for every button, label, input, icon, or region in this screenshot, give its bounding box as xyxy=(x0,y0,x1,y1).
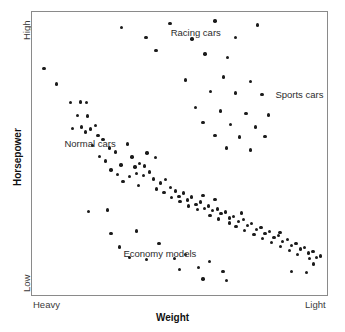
data-point xyxy=(55,82,58,85)
data-point xyxy=(42,67,45,70)
data-point xyxy=(208,260,211,263)
data-point xyxy=(254,125,257,128)
data-point xyxy=(278,231,281,234)
data-point xyxy=(174,189,177,192)
data-point xyxy=(268,230,271,233)
data-point xyxy=(98,155,101,158)
data-point xyxy=(221,270,224,273)
data-point xyxy=(190,195,193,198)
data-point xyxy=(152,177,155,180)
data-point xyxy=(267,113,270,116)
y-axis-title: Horsepower xyxy=(13,128,23,186)
data-point xyxy=(154,49,157,52)
data-point xyxy=(169,186,172,189)
data-point xyxy=(244,112,247,115)
data-point xyxy=(234,36,237,39)
data-point xyxy=(256,23,259,26)
data-point xyxy=(137,184,140,187)
data-point xyxy=(162,191,165,194)
data-point xyxy=(133,165,136,168)
data-point xyxy=(106,208,109,211)
data-point xyxy=(225,279,228,282)
data-point xyxy=(85,101,88,104)
data-point xyxy=(79,100,82,103)
data-point xyxy=(87,210,90,213)
data-point xyxy=(270,241,273,244)
data-point xyxy=(207,204,210,207)
data-point xyxy=(307,251,310,254)
data-point xyxy=(211,209,214,212)
data-point xyxy=(142,174,145,177)
data-point xyxy=(216,207,219,210)
data-point xyxy=(288,249,291,252)
data-point xyxy=(243,229,246,232)
data-point xyxy=(290,270,293,273)
plot-annotation-label: Economy models xyxy=(123,249,196,259)
data-point xyxy=(217,217,220,220)
scatter-chart-figure: High Low Horsepower Racing carsSports ca… xyxy=(0,0,345,332)
data-point xyxy=(252,233,255,236)
data-point xyxy=(116,173,119,176)
data-point xyxy=(234,225,237,228)
data-point xyxy=(177,195,180,198)
data-point xyxy=(249,80,252,83)
data-point xyxy=(164,178,167,181)
data-point xyxy=(224,210,227,213)
data-point xyxy=(194,106,197,109)
data-point xyxy=(126,142,129,145)
data-point xyxy=(96,134,99,137)
data-point xyxy=(197,266,200,269)
data-point xyxy=(119,163,122,166)
data-point xyxy=(89,127,92,130)
data-point xyxy=(94,124,97,127)
x-axis-right-tick-label: Light xyxy=(305,300,326,310)
data-point xyxy=(84,130,87,133)
data-point xyxy=(290,244,293,247)
data-point xyxy=(234,91,237,94)
data-point xyxy=(86,114,89,117)
data-point xyxy=(80,125,83,128)
data-point xyxy=(277,234,280,237)
data-point xyxy=(186,198,189,201)
data-point xyxy=(296,253,299,256)
data-point xyxy=(114,150,117,153)
data-point xyxy=(120,26,123,29)
data-point xyxy=(294,242,297,245)
data-point xyxy=(249,148,252,151)
data-point xyxy=(319,254,322,257)
data-point xyxy=(255,228,258,231)
data-point xyxy=(213,198,216,201)
data-point xyxy=(315,256,318,259)
data-point xyxy=(187,204,190,207)
data-point xyxy=(143,164,146,167)
data-point xyxy=(240,211,243,214)
data-point xyxy=(226,56,229,59)
data-point xyxy=(201,277,204,280)
data-point xyxy=(196,208,199,211)
data-point xyxy=(263,232,266,235)
data-point xyxy=(201,121,204,124)
data-point xyxy=(203,52,206,55)
data-point xyxy=(228,221,231,224)
plot-area: Racing carsSports carsNormal carsEconomy… xyxy=(31,11,328,296)
data-point xyxy=(199,200,202,203)
data-point xyxy=(194,203,197,206)
data-point xyxy=(154,156,157,159)
data-point xyxy=(178,200,181,203)
data-point xyxy=(299,247,302,250)
data-point xyxy=(184,78,187,81)
data-point xyxy=(168,22,171,25)
x-axis-left-tick-label: Heavy xyxy=(33,300,60,310)
data-point xyxy=(182,191,185,194)
plot-annotation-label: Sports cars xyxy=(275,90,323,100)
data-point xyxy=(260,93,263,96)
data-point xyxy=(69,101,72,104)
data-point xyxy=(128,175,131,178)
data-point xyxy=(178,268,181,271)
data-point xyxy=(312,262,315,265)
x-axis-title: Weight xyxy=(0,313,345,323)
data-point xyxy=(135,229,138,232)
plot-annotation-label: Racing cars xyxy=(171,28,221,38)
data-point xyxy=(250,222,253,225)
data-point xyxy=(303,246,306,249)
